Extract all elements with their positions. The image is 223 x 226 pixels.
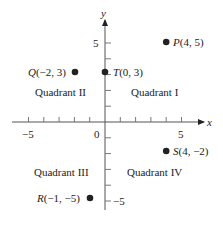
coordinate-plane: x y −5 0 5 5 −5 P(4, 5) Q(−2, 3) T(0, 3)…: [0, 0, 223, 226]
y-axis-label: y: [100, 7, 106, 19]
x-axis-label: x: [206, 116, 212, 128]
x-tick-label-neg5: −5: [22, 128, 34, 140]
y-tick-label-neg5: −5: [113, 195, 125, 207]
point-r-label: R(−1, −5): [36, 192, 80, 205]
point-p-label: P(4, 5): [172, 36, 204, 49]
quadrant-label-4: Quadrant IV: [127, 166, 182, 178]
quadrant-label-2: Quadrant II: [35, 86, 86, 98]
x-tick-label-pos5: 5: [178, 128, 184, 140]
point-q: [72, 69, 79, 76]
point-t-label: T(0, 3): [113, 66, 143, 79]
quadrant-label-1: Quadrant I: [131, 86, 179, 98]
quadrant-label-3: Quadrant III: [34, 166, 89, 178]
x-tick-label-zero: 0: [94, 128, 100, 140]
y-tick-label-pos5: 5: [93, 37, 99, 49]
point-s-label: S(4, −2): [173, 145, 209, 158]
coordinate-plane-figure: x y −5 0 5 5 −5 P(4, 5) Q(−2, 3) T(0, 3)…: [0, 0, 223, 226]
point-q-label: Q(−2, 3): [28, 66, 66, 79]
point-s: [163, 148, 170, 155]
point-r: [87, 195, 94, 202]
point-p: [163, 39, 170, 46]
point-t: [102, 69, 109, 76]
